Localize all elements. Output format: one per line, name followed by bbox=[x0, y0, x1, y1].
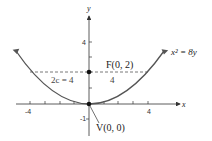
y-tick-4: 4 bbox=[82, 39, 86, 46]
half-width-label: 4 bbox=[110, 75, 115, 85]
parabola-diagram bbox=[0, 0, 212, 141]
parabola-curve bbox=[16, 51, 164, 104]
x-axis-label: x bbox=[182, 100, 186, 110]
x-tick-neg4: -4 bbox=[25, 108, 31, 115]
y-axis-label: y bbox=[87, 4, 91, 14]
x-tick-4: 4 bbox=[147, 108, 151, 115]
focus-label: F(0, 2) bbox=[106, 60, 133, 70]
vertex-point bbox=[87, 102, 92, 107]
vertex-label: V(0, 0) bbox=[96, 123, 125, 133]
curve-arrow-left bbox=[13, 46, 21, 54]
focus-point bbox=[87, 70, 92, 75]
y-tick-neg1: -1 bbox=[80, 115, 86, 122]
vertex-pointer-line bbox=[90, 106, 99, 123]
latus-rectum-label: 2c = 4 bbox=[51, 75, 74, 85]
equation-label: x² = 8y bbox=[171, 47, 197, 57]
curve-arrow-right bbox=[160, 47, 168, 55]
